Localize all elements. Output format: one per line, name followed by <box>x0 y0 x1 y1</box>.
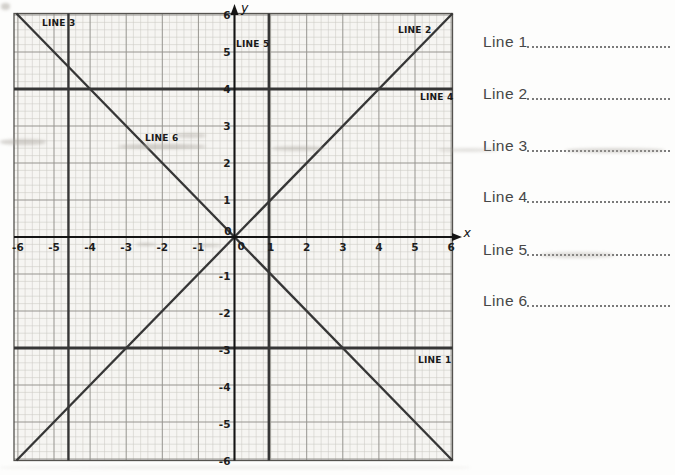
answer-row-label: Line 3 <box>483 137 528 155</box>
tick-label: -2 <box>156 241 168 253</box>
tick-label: 3 <box>223 120 230 132</box>
tick-label: 0 <box>224 225 231 237</box>
line-label: LINE 2 <box>398 25 431 35</box>
line-label: LINE 6 <box>145 133 178 143</box>
line-label: LINE 5 <box>236 39 269 49</box>
tick-label: 4 <box>375 241 382 253</box>
coordinate-grid-figure: -6-5-4-3-2-1123456654321-1-2-3-4-5-600yx… <box>0 0 475 475</box>
answer-row: Line 5 <box>483 241 673 261</box>
tick-label: 6 <box>223 9 230 21</box>
tick-label: -5 <box>48 241 60 253</box>
tick-label: 1 <box>223 194 230 206</box>
answer-row: Line 3 <box>483 137 673 157</box>
tick-label: 6 <box>447 241 454 253</box>
answer-row-label: Line 1 <box>483 33 528 51</box>
tick-label: -6 <box>219 455 231 467</box>
tick-label: 3 <box>339 241 346 253</box>
tick-label: 2 <box>303 241 310 253</box>
answer-blank <box>527 291 670 307</box>
tick-label: 2 <box>223 157 230 169</box>
answer-list: Line 1 Line 2 Line 3 Line 4 Line 5 Line … <box>470 0 675 475</box>
line-label: LINE 3 <box>42 18 75 28</box>
answer-blank <box>527 136 670 152</box>
tick-label: 5 <box>223 46 230 58</box>
tick-label: -4 <box>84 241 96 253</box>
y-axis-arrow-icon <box>231 4 239 15</box>
tick-label: 1 <box>267 241 274 253</box>
worksheet-page: -6-5-4-3-2-1123456654321-1-2-3-4-5-600yx… <box>0 0 675 475</box>
tick-label: -3 <box>219 344 231 356</box>
tick-label: -5 <box>219 418 231 430</box>
answer-row: Line 4 <box>483 188 673 208</box>
y-axis-title: y <box>240 0 249 15</box>
answer-row: Line 1 <box>483 33 673 53</box>
answer-blank <box>527 84 670 100</box>
line-label: LINE 4 <box>420 92 453 102</box>
answer-blank <box>527 240 670 256</box>
tick-label: -2 <box>219 307 231 319</box>
tick-label: -1 <box>219 270 231 282</box>
answer-row-label: Line 2 <box>483 85 528 103</box>
answer-row-label: Line 5 <box>483 241 528 259</box>
answer-row-label: Line 4 <box>483 188 528 206</box>
answer-row-label: Line 6 <box>483 292 528 310</box>
answer-row: Line 6 <box>483 292 673 312</box>
tick-label: -1 <box>193 241 205 253</box>
answer-row: Line 2 <box>483 85 673 105</box>
line-label: LINE 1 <box>418 355 451 365</box>
tick-label: 0 <box>238 240 245 252</box>
tick-label: -6 <box>12 241 24 253</box>
answer-blank <box>527 32 670 48</box>
tick-label: -4 <box>219 381 231 393</box>
tick-label: -3 <box>120 241 132 253</box>
answer-blank <box>527 187 670 203</box>
tick-label: 5 <box>411 241 418 253</box>
tick-label: 4 <box>223 83 230 95</box>
